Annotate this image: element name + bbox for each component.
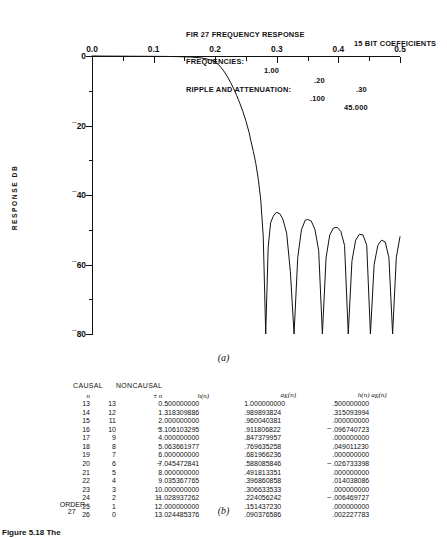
cell-akn: .396860858 xyxy=(244,477,332,486)
cell-noncausal-n: 2 xyxy=(116,417,162,426)
cell-causal-n: 20 xyxy=(60,460,90,469)
cell-hn-akn: .000000000 xyxy=(332,434,412,443)
frequency-response-plot: 0.00.10.20.30.40.5 0¯20¯40¯60¯80 RESPONS… xyxy=(0,44,447,344)
cell-causal-n: 23 xyxy=(60,486,90,495)
table-row: 15112.000000000.960040381.000000000 xyxy=(60,417,412,426)
table-row: 1794.000000000.847379957.000000000 xyxy=(60,434,412,443)
cell-causal-n2: 11 xyxy=(90,417,116,426)
cell-akn: .847379957 xyxy=(244,434,332,443)
table-row: 2067.045472841.588085846.026733398 xyxy=(60,460,412,469)
cell-hn-akn: .006469727 xyxy=(332,494,412,503)
cell-causal-n: 19 xyxy=(60,451,90,460)
cell-hn: .045472841 xyxy=(162,460,244,469)
figure-caption: Figure 5.18 The xyxy=(2,528,302,538)
table-row: 23310.000000000.306633533.000000000 xyxy=(60,486,412,495)
cell-causal-n: 17 xyxy=(60,434,90,443)
col-header-hn-akn: h(n) aK(n) xyxy=(332,391,412,401)
cell-causal-n2: 8 xyxy=(90,443,116,452)
cell-noncausal-n: 8 xyxy=(116,469,162,478)
cell-hn-akn: .500000000 xyxy=(332,400,412,409)
cell-hn-akn: .315093994 xyxy=(332,409,412,418)
cell-hn: .000000000 xyxy=(162,434,244,443)
cell-noncausal-n: 7 xyxy=(116,460,162,469)
cell-hn: .000000000 xyxy=(162,417,244,426)
cell-noncausal-n: 5 xyxy=(116,443,162,452)
cell-causal-n: 18 xyxy=(60,443,90,452)
cell-akn: .224056242 xyxy=(244,494,332,503)
table-row: 14121.318309886.989893824.315093994 xyxy=(60,409,412,418)
header-row-title: FIR 27 FREQUENCY RESPONSE 15 BIT COEFFIC… xyxy=(186,20,444,29)
cell-hn: .318309886 xyxy=(162,409,244,418)
cell-causal-n: 22 xyxy=(60,477,90,486)
figure-b-caption: (b) xyxy=(0,505,447,516)
cell-noncausal-n: 0 xyxy=(116,400,162,409)
table-row: 1976.000000000.681966236.000000000 xyxy=(60,451,412,460)
cell-causal-n: 13 xyxy=(60,400,90,409)
table-group-header-row: CAUSAL NONCAUSAL xyxy=(60,382,412,391)
cell-hn-akn: .000000000 xyxy=(332,486,412,495)
cell-hn: .000000000 xyxy=(162,486,244,495)
cell-hn-akn: .000000000 xyxy=(332,417,412,426)
cell-causal-n2: 2 xyxy=(90,494,116,503)
table-row: 1885.063661977.769635258.049011230 xyxy=(60,443,412,452)
cell-hn: .500000000 xyxy=(162,400,244,409)
col-header-pm-n: ± n xyxy=(116,391,162,401)
cell-causal-n2: 7 xyxy=(90,451,116,460)
table-row: 16103.106103295.911806822.096740723 xyxy=(60,426,412,435)
table-row: 2249.035367765.396860858.014038086 xyxy=(60,477,412,486)
cell-akn: .989893824 xyxy=(244,409,332,418)
cell-noncausal-n: 9 xyxy=(116,477,162,486)
cell-akn: .960040381 xyxy=(244,417,332,426)
cell-causal-n2: 3 xyxy=(90,486,116,495)
cell-causal-n: 16 xyxy=(60,426,90,435)
table-row: 24211.028937262.224056242.006469727 xyxy=(60,494,412,503)
cell-hn-akn: .026733398 xyxy=(332,460,412,469)
cell-causal-n2: 6 xyxy=(90,460,116,469)
cell-hn-akn: .096740723 xyxy=(332,426,412,435)
cell-noncausal-n: 4 xyxy=(116,434,162,443)
cell-noncausal-n: 10 xyxy=(116,486,162,495)
cell-hn: .028937262 xyxy=(162,494,244,503)
cell-noncausal-n: 3 xyxy=(116,426,162,435)
cell-causal-n: 14 xyxy=(60,409,90,418)
cell-noncausal-n: 1 xyxy=(116,409,162,418)
cell-akn: .306633533 xyxy=(244,486,332,495)
table-row: 2158.000000000.491813351.000000000 xyxy=(60,469,412,478)
cell-causal-n2: 12 xyxy=(90,409,116,418)
col-header-hn: h(n) xyxy=(162,391,244,401)
cell-hn-akn: .000000000 xyxy=(332,469,412,478)
response-curve xyxy=(0,44,447,344)
cell-causal-n2: 13 xyxy=(90,400,116,409)
col-header-n: n xyxy=(60,391,90,401)
cell-hn-akn: .014038086 xyxy=(332,477,412,486)
cell-causal-n2: 10 xyxy=(90,426,116,435)
cell-noncausal-n: 6 xyxy=(116,451,162,460)
cell-akn: .588085846 xyxy=(244,460,332,469)
table-header-row: n ± n h(n) aK(n) h(n) aK(n) xyxy=(60,391,412,401)
cell-hn-akn: .049011230 xyxy=(332,443,412,452)
cell-hn-akn: .000000000 xyxy=(332,451,412,460)
cell-causal-n: 15 xyxy=(60,417,90,426)
cell-akn: .769635258 xyxy=(244,443,332,452)
cell-akn: .681966236 xyxy=(244,451,332,460)
cell-noncausal-n: 11 xyxy=(116,494,162,503)
table-row: 13130.5000000001.000000000.500000000 xyxy=(60,400,412,409)
cell-akn: .491813351 xyxy=(244,469,332,478)
cell-hn: .000000000 xyxy=(162,469,244,478)
group-header-noncausal: NONCAUSAL xyxy=(116,382,162,391)
cell-hn: .000000000 xyxy=(162,451,244,460)
col-header-akn: aK(n) xyxy=(244,391,332,401)
cell-akn: 1.000000000 xyxy=(244,400,332,409)
cell-causal-n2: 5 xyxy=(90,469,116,478)
cell-causal-n2: 4 xyxy=(90,477,116,486)
cell-causal-n: 21 xyxy=(60,469,90,478)
header-title: FIR 27 FREQUENCY RESPONSE xyxy=(186,30,305,39)
figure-page: FIR 27 FREQUENCY RESPONSE 15 BIT COEFFIC… xyxy=(0,0,447,538)
group-header-causal: CAUSAL xyxy=(60,382,116,391)
figure-a-caption: (a) xyxy=(0,352,447,363)
cell-akn: .911806822 xyxy=(244,426,332,435)
cell-hn: .106103295 xyxy=(162,426,244,435)
cell-causal-n2: 9 xyxy=(90,434,116,443)
cell-hn: .063661977 xyxy=(162,443,244,452)
cell-hn: .035367765 xyxy=(162,477,244,486)
